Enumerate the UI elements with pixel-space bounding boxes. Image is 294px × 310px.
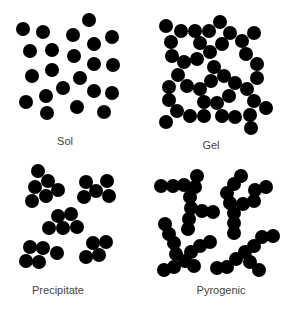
particle (25, 69, 39, 83)
particle (235, 34, 249, 48)
particle (243, 108, 257, 122)
particle (159, 19, 173, 33)
particle (164, 35, 178, 49)
particle (19, 95, 33, 109)
particle (77, 190, 91, 204)
particle (51, 209, 65, 223)
particle (180, 79, 194, 93)
particle (197, 95, 211, 109)
particle (188, 24, 202, 38)
particle (31, 164, 45, 178)
particle (19, 254, 33, 268)
particle (70, 100, 84, 114)
particle (240, 82, 254, 96)
particle (190, 52, 204, 66)
particle (25, 194, 39, 208)
particle (51, 183, 65, 197)
particle (45, 43, 59, 57)
particle (99, 235, 113, 249)
particle (102, 189, 116, 203)
precipitate-label: Precipitate (32, 284, 84, 296)
particle (215, 37, 229, 51)
particle (40, 106, 54, 120)
particle (174, 24, 188, 38)
particle (87, 37, 101, 51)
particle (183, 109, 197, 123)
particle (259, 180, 273, 194)
particle (252, 263, 266, 277)
particle (239, 47, 253, 61)
particle (154, 179, 168, 193)
particle (92, 248, 106, 262)
particle (181, 222, 195, 236)
particle (36, 25, 50, 39)
particle (228, 76, 242, 90)
particle (28, 180, 42, 194)
particle (210, 96, 224, 110)
particle (89, 184, 103, 198)
particle (66, 28, 80, 42)
particle (206, 205, 220, 219)
particle (82, 13, 96, 27)
particle (197, 109, 211, 123)
particle (187, 259, 201, 273)
particle (170, 104, 184, 118)
particle (105, 30, 119, 44)
particle (162, 80, 176, 94)
particle (105, 86, 119, 100)
particle (213, 15, 227, 29)
particle (165, 49, 179, 63)
particle (39, 89, 53, 103)
particle (56, 81, 70, 95)
particle (222, 89, 236, 103)
particle (202, 24, 216, 38)
particle (36, 241, 50, 255)
gel-label: Gel (202, 139, 219, 151)
particle (100, 174, 114, 188)
particle (167, 260, 181, 274)
particle (247, 26, 261, 40)
pyrogenic-label: Pyrogenic (197, 284, 246, 296)
sol-label: Sol (57, 135, 73, 147)
particle (67, 49, 81, 63)
particle (32, 255, 46, 269)
sol-particles (16, 13, 120, 120)
precipitate-particles (19, 164, 116, 269)
particle (87, 57, 101, 71)
particle (247, 94, 261, 108)
particle (106, 58, 120, 72)
particle (97, 105, 111, 119)
particle (23, 240, 37, 254)
particle (87, 84, 101, 98)
particle (215, 109, 229, 123)
particle (45, 63, 59, 77)
particle (70, 220, 84, 234)
particle (203, 235, 217, 249)
particle (203, 45, 217, 59)
particle (227, 226, 241, 240)
particle (193, 82, 207, 96)
particle (56, 221, 70, 235)
particle (73, 71, 87, 85)
pyrogenic-particles (154, 169, 280, 277)
particle (259, 101, 273, 115)
particle (210, 261, 224, 275)
particle (50, 246, 64, 260)
particle (79, 250, 93, 264)
particle (42, 221, 56, 235)
particle (244, 121, 258, 135)
particle (16, 22, 30, 36)
particle (228, 110, 242, 124)
particle (250, 57, 264, 71)
particle (39, 189, 53, 203)
particle (177, 55, 191, 69)
particle (171, 68, 185, 82)
particle (64, 207, 78, 221)
particle (159, 115, 173, 129)
gel-particles (159, 15, 273, 135)
particle (23, 44, 37, 58)
particle (86, 236, 100, 250)
diagram-canvas (0, 0, 294, 310)
particle (250, 71, 264, 85)
